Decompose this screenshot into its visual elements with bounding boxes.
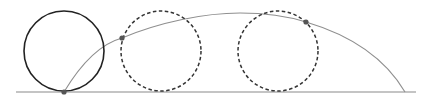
- trace-point-p1: [61, 89, 66, 94]
- trajectory-curve: [64, 13, 405, 92]
- trace-point-p3: [303, 19, 308, 24]
- solid-circle-start: [24, 11, 104, 91]
- rolling-circle-diagram: [0, 0, 438, 102]
- dashed-circle-mid: [121, 11, 201, 91]
- trace-point-p2: [119, 35, 124, 40]
- circles-group: [24, 11, 318, 91]
